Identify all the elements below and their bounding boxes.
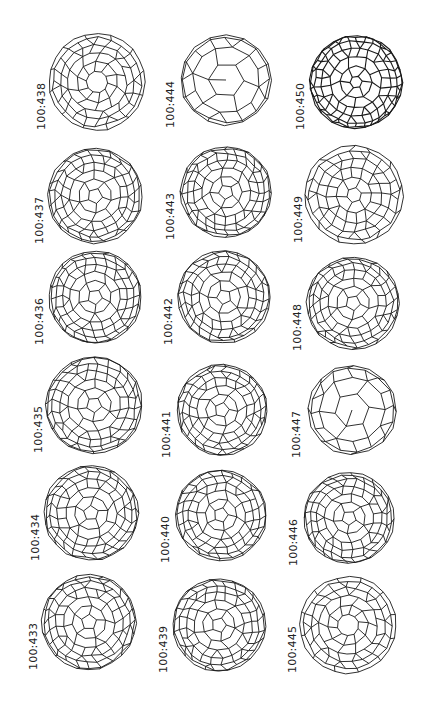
structure-label: 100:444 [164, 81, 177, 128]
structure-label: 100:440 [159, 516, 172, 563]
structure-label: 100:445 [286, 626, 299, 673]
fullerene-structure [45, 146, 145, 246]
structure-label: 100:441 [160, 411, 173, 458]
structure-label: 100:448 [291, 304, 304, 351]
structure-label: 100:435 [32, 406, 45, 453]
fullerene-structure [46, 248, 144, 346]
structure-label: 100:443 [164, 193, 177, 240]
structure-label: 100:447 [290, 411, 303, 458]
fullerene-structure [301, 470, 397, 566]
fullerene-structure [46, 31, 148, 133]
structure-label: 100:446 [287, 519, 300, 566]
structure-label: 100:439 [157, 626, 170, 673]
fullerene-structure [178, 32, 274, 128]
fullerene-structure [297, 574, 399, 676]
fullerene-structure [170, 576, 268, 674]
structure-label: 100:437 [33, 197, 46, 244]
fullerene-structure [173, 467, 269, 563]
fullerene-structure [304, 254, 402, 352]
fullerene-structure [302, 143, 406, 247]
fullerene-structure [41, 463, 141, 563]
fullerene-structure [43, 354, 145, 456]
fullerene-structure [174, 362, 270, 458]
fullerene-structure [175, 248, 273, 346]
structure-label: 100:436 [33, 298, 46, 345]
fullerene-structure [305, 363, 399, 457]
structure-label: 100:449 [292, 196, 305, 243]
fullerene-structure [178, 144, 274, 240]
fullerene-structure [307, 33, 405, 131]
structure-label: 100:433 [27, 623, 40, 670]
fullerene-structure [39, 572, 139, 672]
structure-label: 100:434 [29, 514, 42, 561]
structure-label: 100:450 [294, 83, 307, 130]
structure-label: 100:438 [35, 83, 48, 130]
structure-label: 100:442 [162, 298, 175, 345]
